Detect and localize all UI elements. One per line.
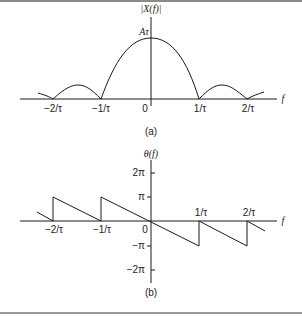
b-ytick-neg-2pi: −2π — [127, 264, 145, 275]
b-tick-neg2: −2/τ — [45, 224, 63, 235]
a-tick-zero: 0 — [142, 103, 148, 114]
a-tick-pos2: 2/τ — [242, 103, 254, 114]
a-tick-pos1: 1/τ — [194, 103, 206, 114]
b-ytick-2pi: 2π — [133, 167, 145, 178]
b-y-axis-label: θ(f) — [144, 148, 158, 159]
b-tick-neg1: −1/τ — [93, 224, 111, 235]
a-tail-right — [247, 92, 264, 99]
b-tick-pos2: 2/τ — [243, 207, 255, 218]
a-side-lobe-left — [53, 85, 101, 99]
figure-graphics — [0, 0, 302, 322]
a-tail-left — [38, 93, 53, 99]
a-tick-neg2: −2/τ — [44, 103, 62, 114]
b-x-axis-label: f — [282, 215, 285, 226]
b-caption: (b) — [145, 287, 157, 298]
b-tick-zero: 0 — [142, 224, 148, 235]
a-tick-neg1: −1/τ — [92, 103, 110, 114]
a-x-axis-label: f — [282, 93, 285, 104]
a-caption: (a) — [145, 126, 157, 137]
a-main-lobe — [101, 38, 199, 99]
b-tick-pos1: 1/τ — [195, 207, 207, 218]
a-side-lobe-right — [199, 85, 247, 99]
b-ytick-neg-pi: −π — [132, 240, 145, 251]
a-y-axis-label: |X(f)| — [140, 3, 161, 14]
a-peak-label: Aτ — [139, 26, 149, 37]
b-ytick-pi: π — [138, 191, 145, 202]
